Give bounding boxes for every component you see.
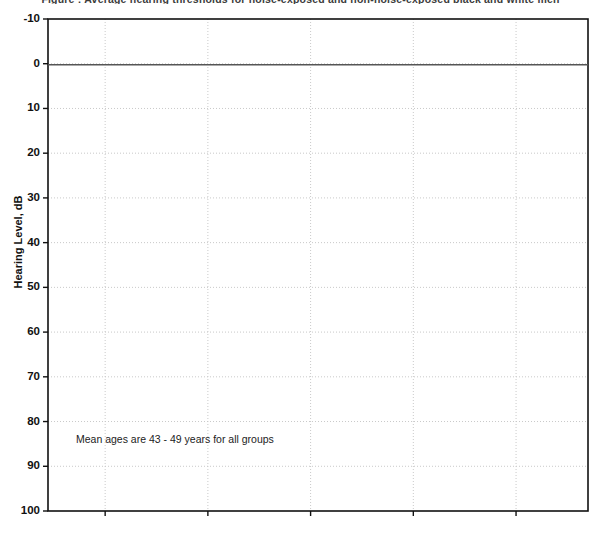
plot-canvas <box>0 0 601 560</box>
chart-figure: Figure : Average hearing thresholds for … <box>0 0 601 560</box>
chart-annotation: Mean ages are 43 - 49 years for all grou… <box>76 433 274 445</box>
y-tick-label: 50 <box>6 280 40 292</box>
y-tick-label: 100 <box>6 504 40 516</box>
y-tick-label: 10 <box>6 101 40 113</box>
y-tick-label: 60 <box>6 325 40 337</box>
y-tick-label: 40 <box>6 236 40 248</box>
y-tick-label: -10 <box>6 12 40 24</box>
y-tick-label: 90 <box>6 459 40 471</box>
y-tick-label: 20 <box>6 146 40 158</box>
y-tick-label: 80 <box>6 415 40 427</box>
y-tick-label: 0 <box>6 57 40 69</box>
y-tick-label: 30 <box>6 191 40 203</box>
y-tick-label: 70 <box>6 370 40 382</box>
